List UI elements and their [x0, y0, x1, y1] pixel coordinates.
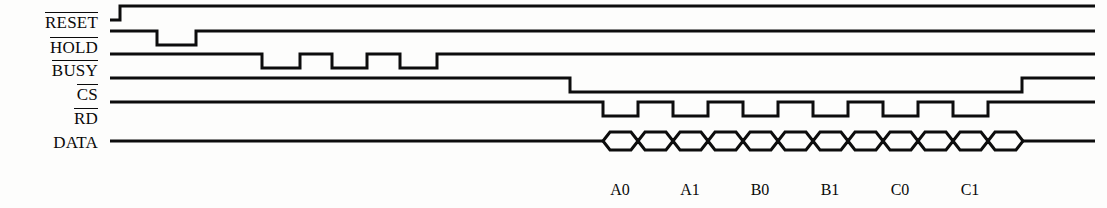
bus-value-label: A1 [680, 182, 700, 198]
waveform-canvas [0, 0, 1107, 208]
wave-busy [110, 54, 1095, 68]
timing-diagram: RESETHOLDBUSYCSRDDATA A0A1B0B1C0C1 [0, 0, 1107, 208]
bus-value-label: B1 [821, 182, 840, 198]
bus-value-label: C0 [891, 182, 910, 198]
waveform-paths [110, 6, 1095, 150]
bus-value-label: C1 [961, 182, 980, 198]
wave-hold [110, 31, 1095, 45]
wave-data-bus-upper [603, 132, 1023, 141]
bus-value-label: A0 [610, 182, 630, 198]
wave-reset [110, 6, 1095, 20]
wave-rd [110, 102, 1095, 116]
wave-data-bus-lower [603, 141, 1023, 150]
bus-value-label: B0 [751, 182, 770, 198]
wave-cs [110, 78, 1095, 92]
